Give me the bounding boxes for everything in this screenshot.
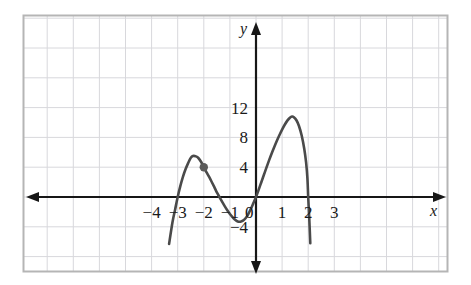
x-tick-label: −3	[169, 203, 187, 222]
x-tick-label: 3	[330, 203, 339, 222]
y-tick-label: 8	[240, 128, 249, 147]
x-tick-label: −4	[143, 203, 162, 222]
canvas-background	[0, 0, 471, 285]
y-tick-label: 4	[240, 158, 249, 177]
coordinate-plot: −4−3−2−10123 −44812 x y	[0, 0, 471, 285]
chart-figure: −4−3−2−10123 −44812 x y	[0, 0, 471, 285]
x-tick-label: 2	[304, 203, 313, 222]
x-tick-label: −2	[195, 203, 213, 222]
y-axis-label: y	[238, 20, 248, 38]
marked-point	[200, 163, 208, 171]
y-tick-label: 12	[231, 99, 248, 118]
y-tick-label: −4	[230, 218, 249, 237]
x-axis-label: x	[429, 202, 437, 219]
x-tick-label: 1	[278, 203, 287, 222]
